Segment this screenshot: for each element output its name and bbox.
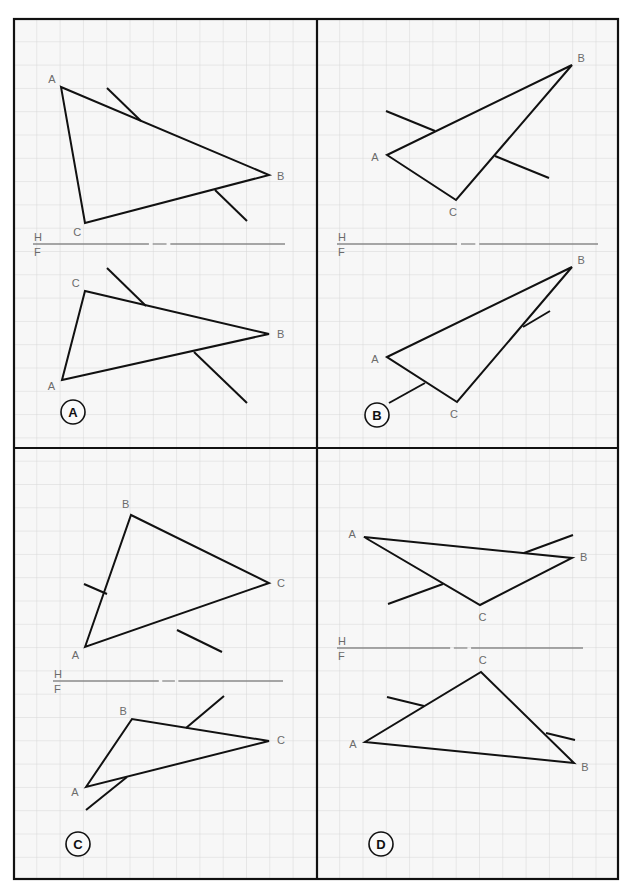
vertex-label-a: A [48,73,56,85]
panel-badge-a: A [61,400,85,424]
fold-label-h: H [338,231,346,243]
fold-label-h: H [34,231,42,243]
fold-label-f: F [338,650,345,662]
svg-text:C: C [73,837,83,852]
svg-text:A: A [68,405,78,420]
vertex-label-a: A [371,353,379,365]
vertex-label-b: B [277,170,284,182]
vertex-label-b: B [580,551,587,563]
vertex-label-c: C [72,277,80,289]
fold-label-f: F [34,246,41,258]
vertex-label-c: C [277,734,285,746]
vertex-label-c: C [277,577,285,589]
vertex-label-a: A [371,151,379,163]
vertex-label-b: B [578,52,585,64]
vertex-label-c: C [450,408,458,420]
vertex-label-b: B [581,761,588,773]
fold-label-h: H [54,668,62,680]
vertex-label-a: A [48,380,56,392]
svg-text:D: D [376,837,385,852]
vertex-label-c: C [479,654,487,666]
svg-text:B: B [372,408,381,423]
vertex-label-a: A [72,649,80,661]
vertex-label-c: C [449,206,457,218]
vertex-label-b: B [119,705,126,717]
panel-badge-d: D [369,832,393,856]
vertex-label-c: C [73,226,81,238]
vertex-label-a: A [71,786,79,798]
vertex-label-b: B [277,328,284,340]
fold-label-f: F [54,683,61,695]
vertex-label-b: B [122,498,129,510]
fold-label-h: H [338,635,346,647]
panel-badge-b: B [365,403,389,427]
descriptive-geometry-sheet: ABCABCHFAABCABCHFBABCABCHFCABCABCHFD [0,0,634,888]
vertex-label-a: A [349,738,357,750]
fold-label-f: F [338,246,345,258]
vertex-label-b: B [578,254,585,266]
vertex-label-a: A [348,528,356,540]
panel-badge-c: C [66,832,90,856]
vertex-label-c: C [478,611,486,623]
